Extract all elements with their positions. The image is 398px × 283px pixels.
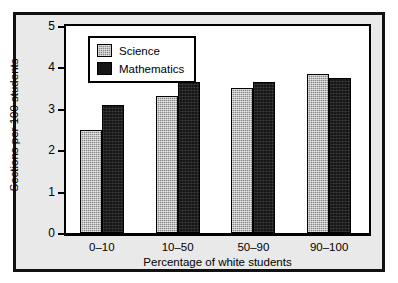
bar-mathematics-2 <box>253 82 275 233</box>
bar-science-0 <box>80 130 102 234</box>
bar-science-3 <box>307 74 329 233</box>
y-tick-label-4: 4 <box>48 60 55 74</box>
legend-label-mathematics: Mathematics <box>119 63 184 75</box>
y-tick-1 <box>58 192 66 194</box>
bar-mathematics-0 <box>102 105 124 233</box>
bar-science-2 <box>231 88 253 233</box>
x-category-label-1: 10–50 <box>162 241 194 253</box>
legend-swatch-mathematics-icon <box>97 62 112 75</box>
y-tick-label-2: 2 <box>48 143 55 157</box>
y-tick-0 <box>58 233 66 235</box>
y-tick-label-1: 1 <box>48 185 55 199</box>
legend-swatch-science-icon <box>97 44 112 57</box>
y-tick-3 <box>58 109 66 111</box>
legend-item-mathematics: Mathematics <box>97 62 184 75</box>
bar-mathematics-3 <box>329 78 351 233</box>
y-tick-5 <box>58 26 66 28</box>
legend-label-science: Science <box>119 45 160 57</box>
y-tick-label-5: 5 <box>48 19 55 33</box>
plot-area: 0 1 2 3 4 5 <box>64 24 371 236</box>
y-tick-2 <box>58 150 66 152</box>
x-axis-label: Percentage of white students <box>64 256 371 268</box>
y-tick-label-3: 3 <box>48 102 55 116</box>
x-category-label-2: 50–90 <box>237 241 269 253</box>
legend-item-science: Science <box>97 44 184 57</box>
x-category-label-3: 90–100 <box>310 241 348 253</box>
bar-science-1 <box>156 96 178 233</box>
chart-legend: Science Mathematics <box>88 36 196 83</box>
chart-figure: Sections per 100 students 0 1 2 3 4 <box>13 12 385 272</box>
bar-mathematics-1 <box>178 82 200 233</box>
y-axis-label: Sections per 100 students <box>8 59 20 192</box>
x-category-label-0: 0–10 <box>89 241 115 253</box>
y-tick-4 <box>58 67 66 69</box>
y-tick-label-0: 0 <box>48 226 55 240</box>
